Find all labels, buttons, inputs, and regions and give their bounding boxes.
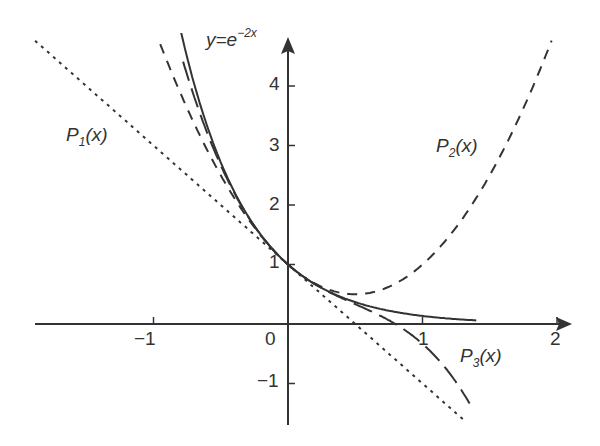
label-p1: P1(x) [66, 124, 108, 146]
curve-p3 [183, 62, 470, 404]
curve-p1 [35, 41, 463, 419]
label-p2: P2(x) [436, 135, 478, 157]
y-tick-label: 1 [269, 251, 280, 273]
axis-ticks [154, 86, 558, 384]
x-tick-label: 1 [418, 328, 429, 350]
y-tick-label: 2 [269, 193, 280, 215]
y-tick-label: 4 [269, 73, 280, 95]
x-tick-label: 0 [265, 328, 276, 350]
x-tick-label: −1 [134, 328, 156, 350]
x-tick-label: 2 [550, 328, 561, 350]
label-p3: P3(x) [460, 345, 502, 367]
plot-canvas [0, 0, 600, 446]
curve-p2 [160, 41, 551, 295]
label-exp: y=e−2x [206, 29, 257, 51]
y-tick-label: 3 [269, 134, 280, 156]
y-tick-label: −1 [257, 370, 279, 392]
